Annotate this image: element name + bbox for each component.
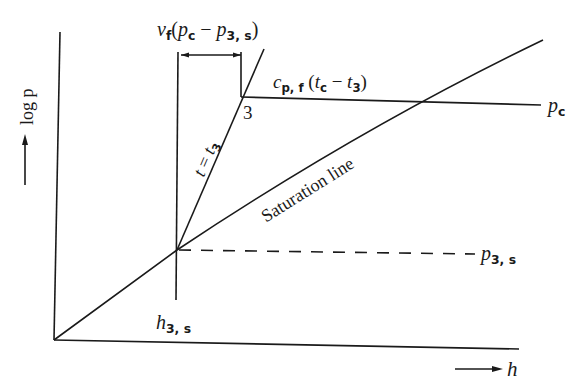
point-3-text: 3 [243,102,253,123]
y-axis-arrow-icon [22,134,28,145]
p-subscript: 3, s [227,28,252,43]
bracket-arrow-left-icon [181,53,189,58]
p-subscript: c [558,104,565,119]
top-expression-label: vf(pc − p3, s) [157,19,258,43]
h-subscript: 3, s [166,321,191,336]
c-subscript: p, f [281,81,303,95]
y-axis-label: log p [18,88,36,125]
cp-expression-label: cp, f (tc − t3) [273,72,367,95]
point-3-label: 3 [243,103,253,122]
p3s-label: p3, s [481,243,516,267]
paren-open: ( [304,71,315,92]
pc-label: pc [548,95,565,119]
p-symbol: p [217,18,227,40]
y-axis-label-text: log p [17,88,37,125]
paren-close: ) [252,18,259,40]
x-axis [54,340,519,349]
p-symbol: p [548,94,558,116]
v-symbol: v [157,18,166,40]
t-subscript: 3 [352,81,360,95]
x-axis-arrow-icon [492,366,503,372]
x-axis-label: h [507,359,518,380]
pc-line [241,97,541,105]
h-symbol: h [156,311,166,333]
p-symbol: p [481,242,491,264]
h3s-label: h3, s [156,312,191,336]
minus: − [195,18,216,40]
t-subscript: c [320,81,327,95]
paren-open: ( [171,18,178,40]
paren-close: ) [361,71,367,92]
x-axis-label-text: h [507,357,518,381]
p-symbol: p [178,18,188,40]
bracket-arrow-right-icon [233,53,241,58]
minus: − [327,71,347,92]
y-axis [54,32,60,340]
p-subscript: 3, s [491,252,516,267]
h3s-vertical-line [176,52,178,300]
p3s-dashed-line [179,250,475,254]
